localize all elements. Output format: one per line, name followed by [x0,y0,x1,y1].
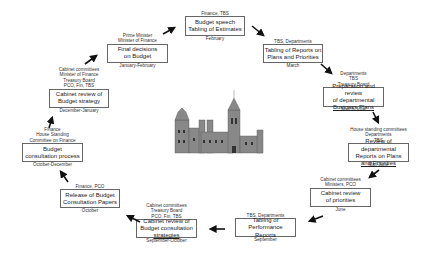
stage-box: Tabling of Reports onPlans and Prioritie… [263,44,323,63]
stage-actors: Finance House Standing Committee on Fina… [22,127,83,143]
stage-box: Cabinet review ofBudget strategy [49,89,109,108]
stage-business-plans: Departments TBS Treasury Board Preparati… [323,71,384,113]
stage-box: Review of departmentalReports on Plansan… [348,143,409,162]
stage-cabinet-priorities: Cabinet committees Ministers, PCO Cabine… [310,177,371,212]
stage-box: Cabinet reviewof priorities [310,188,371,207]
stage-actors: Cabinet committees Treasury Board PCO, F… [136,203,197,219]
stage-period: May-June [348,162,409,167]
stage-period: March [263,63,323,68]
stage-box: Preparation and reviewof departmentalBus… [323,87,384,107]
stage-period: September [235,237,296,242]
parliament-building-icon [173,90,268,155]
stage-box: Release of BudgetConsultation Papers [60,189,120,208]
stage-box: Final decisionson Budget [107,44,168,63]
stage-box: Cabinet review ofBudget consultationstra… [136,219,197,238]
stage-actors: Prime Minister Minister of Finance [107,33,168,44]
stage-box: Budget speechTabling of Estimates [185,16,245,36]
stage-box: Budgetconsultation process [22,143,83,162]
stage-period: December-January [49,108,109,113]
stage-actors: Cabinet committees Minister of Finance T… [49,67,109,89]
stage-final-decisions: Prime Minister Minister of Finance Final… [107,33,168,68]
stage-period: February [185,36,245,41]
stage-tabling-reports: TBS, Departments Tabling of Reports onPl… [263,39,323,69]
stage-period: September-October [136,238,197,243]
stage-release-papers: Finance, PCO Release of BudgetConsultati… [60,184,120,214]
stage-period: January-February [107,63,168,68]
stage-period: October-December [22,162,83,167]
stage-period: June [310,207,371,212]
stage-performance-reports: TBS, Departments Tabling ofPerformanceRe… [235,213,296,243]
stage-budget-speech: Finance, TBS Budget speechTabling of Est… [185,11,245,42]
stage-period: October [60,208,120,213]
stage-consultation-process: Finance House Standing Committee on Fina… [22,127,83,168]
stage-budget-strategy: Cabinet committees Minister of Finance T… [49,67,109,113]
stage-cabinet-consultation: Cabinet committees Treasury Board PCO, F… [136,203,197,244]
stage-actors: Cabinet committees Ministers, PCO [310,177,371,188]
stage-box: Tabling ofPerformanceReports [235,218,296,237]
stage-review-reports: House standing committees Departments TB… [348,127,409,168]
